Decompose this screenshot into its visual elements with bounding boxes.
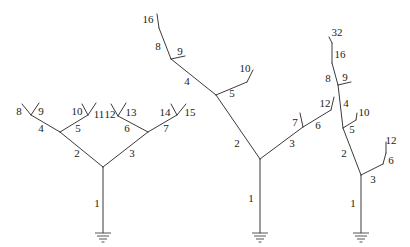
branch-label: 16 bbox=[143, 13, 155, 25]
branch-3 bbox=[260, 127, 303, 159]
branch-label: 5 bbox=[229, 87, 235, 99]
branch-6 bbox=[118, 116, 148, 132]
branch-8 bbox=[332, 63, 338, 85]
branch-label: 7 bbox=[163, 122, 169, 134]
branch-label: 2 bbox=[341, 147, 347, 159]
branch-label: 9 bbox=[342, 71, 348, 83]
branch-label: 16 bbox=[335, 48, 347, 60]
branch-label: 4 bbox=[184, 75, 190, 87]
ground-icon bbox=[252, 233, 268, 242]
branch-label: 3 bbox=[129, 147, 135, 159]
branch-5 bbox=[60, 115, 88, 132]
branch-14 bbox=[171, 104, 177, 115]
branch-label: 6 bbox=[388, 154, 394, 166]
branch-label: 13 bbox=[126, 106, 138, 118]
branch-label: 10 bbox=[240, 62, 252, 74]
branch-label: 11 bbox=[94, 108, 105, 120]
branch-6 bbox=[383, 153, 386, 164]
branch-12 bbox=[331, 97, 334, 110]
branch-4 bbox=[171, 59, 216, 95]
branch-7 bbox=[300, 113, 303, 127]
branch-label: 3 bbox=[370, 173, 376, 185]
branch-label: 12 bbox=[320, 97, 331, 109]
branch-label: 2 bbox=[234, 137, 240, 149]
branch-16 bbox=[157, 14, 159, 28]
branch-4 bbox=[338, 85, 343, 128]
branch-label: 12 bbox=[386, 134, 397, 146]
branch-2 bbox=[216, 95, 260, 159]
branch-label: 1 bbox=[350, 197, 356, 209]
branch-label: 4 bbox=[38, 122, 44, 134]
branch-label: 32 bbox=[332, 26, 343, 38]
branch-label: 15 bbox=[185, 106, 197, 118]
tree-2: 1 2 3 4 5 6 7 8 9 10 12 16 bbox=[143, 13, 335, 242]
branch-10 bbox=[82, 104, 88, 115]
branch-label: 6 bbox=[124, 122, 130, 134]
branch-label: 5 bbox=[75, 122, 81, 134]
branch-label: 4 bbox=[343, 97, 349, 109]
branch-label: 1 bbox=[248, 192, 254, 204]
branch-label: 5 bbox=[349, 123, 355, 135]
branch-label: 10 bbox=[359, 106, 371, 118]
branch-label: 9 bbox=[38, 105, 44, 117]
branch-label: 8 bbox=[155, 40, 161, 52]
branch-label: 8 bbox=[325, 72, 331, 84]
branch-label: 10 bbox=[72, 105, 84, 117]
branch-4 bbox=[31, 115, 60, 132]
branch-2 bbox=[60, 132, 103, 167]
branch-label: 14 bbox=[160, 106, 172, 118]
branch-label: 8 bbox=[16, 105, 22, 117]
branch-label: 1 bbox=[94, 197, 100, 209]
branch-label: 3 bbox=[289, 137, 295, 149]
ground-icon bbox=[353, 233, 369, 242]
diagram-canvas: 1 2 3 4 5 6 7 8 9 10 11 12 13 14 15 bbox=[0, 0, 410, 247]
branch-label: 7 bbox=[292, 116, 298, 128]
ground-icon bbox=[95, 233, 111, 242]
branch-label: 6 bbox=[315, 119, 321, 131]
branch-8 bbox=[22, 104, 31, 115]
branch-label: 9 bbox=[177, 45, 183, 57]
tree-3: 1 2 3 4 5 6 8 9 10 12 16 32 bbox=[325, 26, 396, 242]
branch-label: 2 bbox=[74, 147, 80, 159]
branch-8 bbox=[159, 28, 171, 59]
tree-1: 1 2 3 4 5 6 7 8 9 10 11 12 13 14 15 bbox=[16, 103, 196, 242]
branch-3 bbox=[103, 132, 148, 167]
branch-label: 12 bbox=[105, 108, 116, 120]
branch-10 bbox=[356, 113, 357, 120]
